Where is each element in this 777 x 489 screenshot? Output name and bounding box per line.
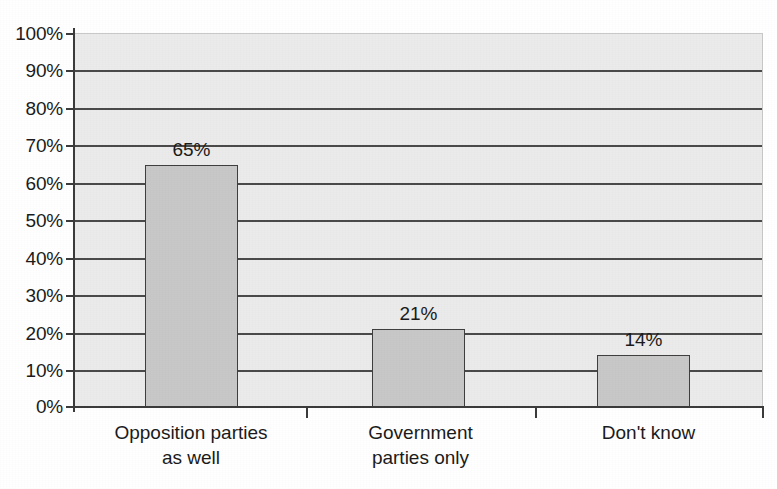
y-axis-label-60: 60% bbox=[26, 174, 63, 193]
y-axis-label-0: 0% bbox=[36, 397, 63, 416]
gridline-100 bbox=[74, 33, 762, 34]
y-tick-20 bbox=[66, 333, 75, 335]
y-tick-30 bbox=[66, 295, 75, 297]
y-tick-0 bbox=[66, 406, 75, 408]
y-axis-label-100: 100% bbox=[15, 24, 63, 43]
bar-government-parties-only bbox=[372, 329, 465, 408]
y-axis-label-70: 70% bbox=[26, 136, 63, 155]
category-line-1: Opposition parties bbox=[76, 420, 306, 445]
category-line-2: parties only bbox=[306, 445, 535, 470]
x-axis-category-opposition-parties-as-well: Opposition parties as well bbox=[76, 420, 306, 470]
gridline-90 bbox=[74, 70, 762, 72]
category-line-1: Don't know bbox=[535, 420, 762, 445]
y-axis-label-50: 50% bbox=[26, 211, 63, 230]
y-tick-100 bbox=[66, 33, 75, 35]
bar-value-government-parties-only: 21% bbox=[368, 304, 469, 323]
y-tick-10 bbox=[66, 370, 75, 372]
y-axis-label-80: 80% bbox=[26, 99, 63, 118]
x-tick-separator-3 bbox=[762, 408, 764, 418]
x-axis-category-government-parties-only: Government parties only bbox=[306, 420, 535, 470]
x-tick-separator-2 bbox=[535, 408, 537, 418]
x-axis-line bbox=[68, 406, 764, 408]
gridline-80 bbox=[74, 108, 762, 110]
y-tick-60 bbox=[66, 183, 75, 185]
y-axis-label-30: 30% bbox=[26, 286, 63, 305]
bar-opposition-parties-as-well bbox=[145, 165, 238, 408]
x-tick-separator-1 bbox=[306, 408, 308, 418]
bar-chart: 100% 90% 80% 70% 60% 50% 40% 30% 20% 10%… bbox=[0, 0, 777, 489]
category-line-2: as well bbox=[76, 445, 306, 470]
y-axis-label-10: 10% bbox=[26, 361, 63, 380]
y-tick-40 bbox=[66, 258, 75, 260]
y-axis-label-40: 40% bbox=[26, 249, 63, 268]
y-tick-50 bbox=[66, 220, 75, 222]
y-axis-label-20: 20% bbox=[26, 324, 63, 343]
y-axis-label-90: 90% bbox=[26, 61, 63, 80]
bar-dont-know bbox=[597, 355, 690, 408]
x-axis-category-dont-know: Don't know bbox=[535, 420, 762, 445]
bar-value-dont-know: 14% bbox=[593, 330, 694, 349]
y-tick-90 bbox=[66, 70, 75, 72]
y-tick-70 bbox=[66, 145, 75, 147]
y-tick-80 bbox=[66, 108, 75, 110]
bar-value-opposition-parties-as-well: 65% bbox=[141, 140, 242, 159]
category-line-1: Government bbox=[306, 420, 535, 445]
